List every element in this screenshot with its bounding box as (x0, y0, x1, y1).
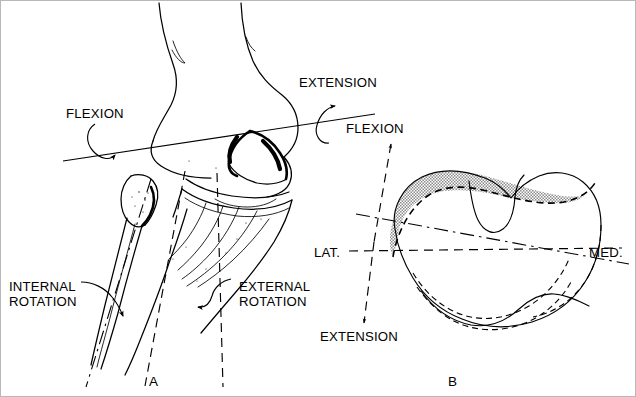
label-medial: MED. (589, 245, 623, 260)
panel-label-a: A (149, 374, 158, 389)
label-lateral: LAT. (314, 245, 340, 260)
label-flexion-b: FLEXION (346, 121, 404, 136)
knee-motion-figure: FLEXION EXTENSION INTERNAL ROTATION EXTE… (1, 1, 636, 397)
label-internal-rotation-line2: ROTATION (9, 294, 77, 309)
panel-label-b: B (448, 374, 457, 389)
label-extension-b: EXTENSION (320, 329, 398, 344)
label-external-rotation-line2: ROTATION (239, 294, 307, 309)
label-extension-a: EXTENSION (299, 75, 377, 90)
label-flexion-a: FLEXION (66, 106, 124, 121)
figure-container: FLEXION EXTENSION INTERNAL ROTATION EXTE… (0, 0, 636, 397)
label-internal-rotation-line1: INTERNAL (9, 279, 76, 294)
label-external-rotation-line1: EXTERNAL (239, 279, 310, 294)
